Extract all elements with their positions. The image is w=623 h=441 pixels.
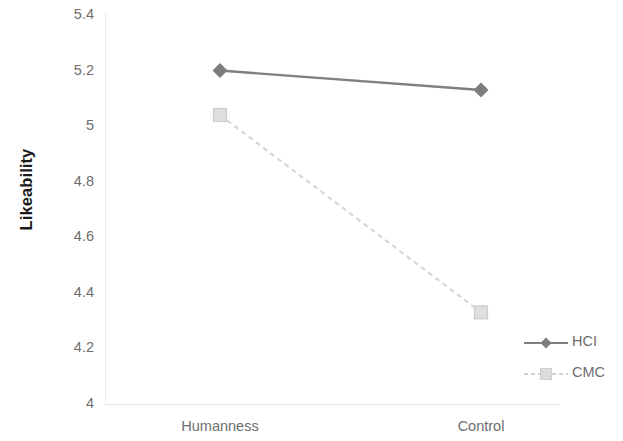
data-point-cmc bbox=[214, 109, 227, 122]
x-axis-tick-label: Control bbox=[458, 418, 505, 434]
data-point-cmc bbox=[475, 306, 488, 319]
legend-item-hci[interactable]: HCI bbox=[524, 330, 620, 361]
data-point-hci bbox=[213, 63, 228, 78]
legend-label-cmc: CMC bbox=[572, 364, 605, 380]
series-line-hci bbox=[220, 71, 481, 90]
likeability-line-chart: Likeability 5.45.254.84.64.44.24 Humanne… bbox=[0, 0, 623, 441]
legend-item-cmc[interactable]: CMC bbox=[524, 361, 620, 392]
data-point-hci bbox=[474, 83, 489, 98]
legend-marker-hci-icon bbox=[524, 335, 568, 351]
legend-marker-cmc-icon bbox=[524, 366, 568, 382]
x-axis-tick-label: Humanness bbox=[181, 418, 258, 434]
chart-legend: HCI CMC bbox=[524, 330, 620, 392]
series-line-cmc bbox=[220, 115, 481, 312]
legend-label-hci: HCI bbox=[572, 333, 597, 349]
